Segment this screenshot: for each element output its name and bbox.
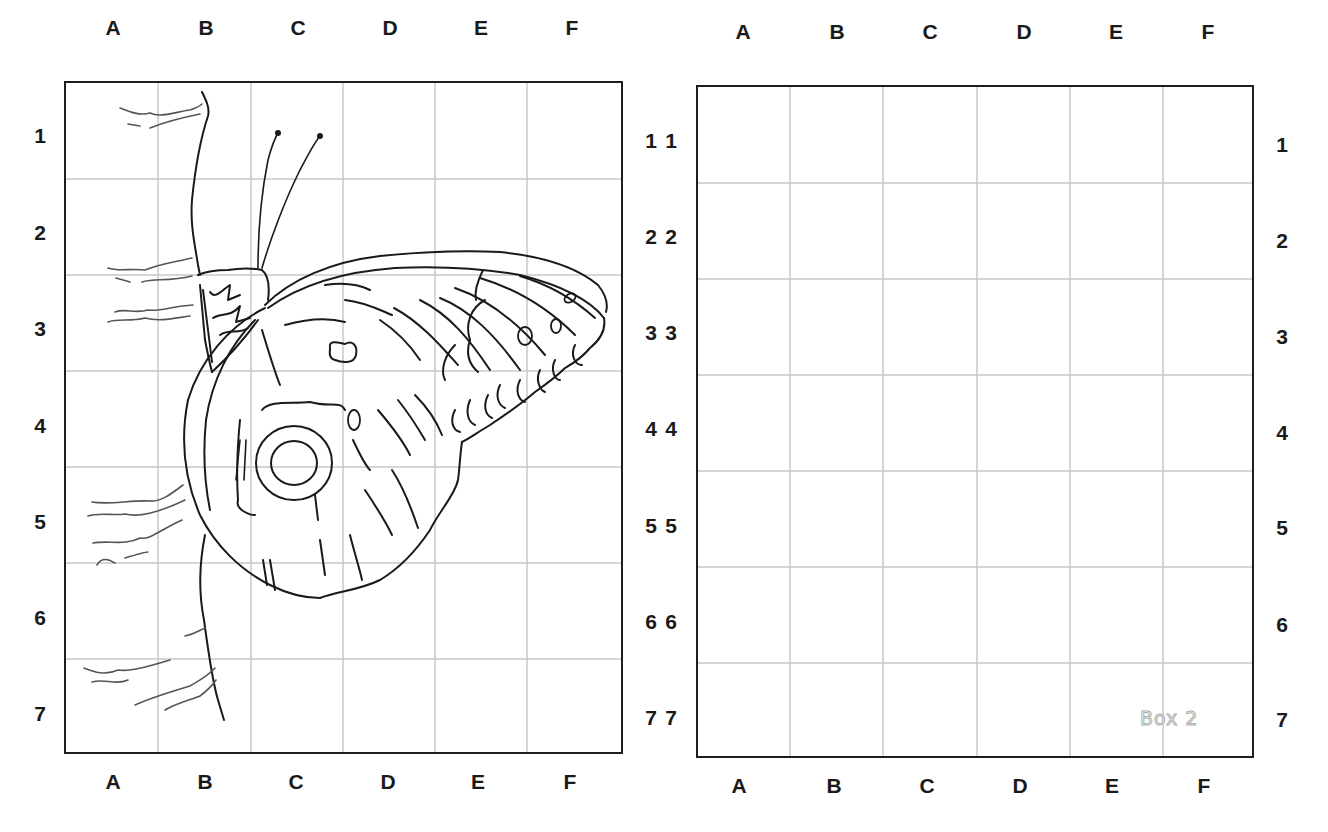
col-label-a: A [735, 20, 750, 44]
col-label-b: B [826, 774, 841, 798]
col-label-f: F [564, 770, 577, 794]
row-label-5: 5 [665, 514, 677, 538]
col-label-b: B [198, 16, 213, 40]
row-label-3: 3 [1276, 325, 1288, 349]
row-label-1: 1 [645, 129, 657, 153]
col-label-a: A [105, 770, 120, 794]
row-label-7: 7 [665, 706, 677, 730]
col-label-a: A [105, 16, 120, 40]
col-label-d: D [382, 16, 397, 40]
row-label-7: 7 [34, 702, 46, 726]
col-label-b: B [829, 20, 844, 44]
row-label-3: 3 [645, 321, 657, 345]
row-label-5: 5 [1276, 516, 1288, 540]
row-label-6: 6 [1276, 613, 1288, 637]
row-label-2: 2 [645, 225, 657, 249]
row-label-3: 3 [34, 317, 46, 341]
box2-grid: Box 2 [696, 85, 1254, 758]
row-label-5: 5 [34, 510, 46, 534]
row-label-6: 6 [34, 606, 46, 630]
box1-grid [64, 81, 623, 754]
row-label-2: 2 [1276, 229, 1288, 253]
col-label-a: A [731, 774, 746, 798]
col-label-d: D [380, 770, 395, 794]
col-label-c: C [288, 770, 303, 794]
row-label-6: 6 [645, 610, 657, 634]
box1-gridlines [66, 83, 621, 752]
box2-gridlines [698, 87, 1252, 756]
col-label-f: F [1198, 774, 1211, 798]
col-label-b: B [197, 770, 212, 794]
row-label-2: 2 [34, 221, 46, 245]
col-label-e: E [1105, 774, 1119, 798]
col-label-e: E [471, 770, 485, 794]
col-label-e: E [1109, 20, 1123, 44]
col-label-c: C [290, 16, 305, 40]
col-label-d: D [1016, 20, 1031, 44]
col-label-e: E [474, 16, 488, 40]
row-label-7: 7 [1276, 708, 1288, 732]
row-label-6: 6 [665, 610, 677, 634]
col-label-f: F [566, 16, 579, 40]
row-label-1: 1 [34, 124, 46, 148]
row-label-1: 1 [1276, 133, 1288, 157]
row-label-7: 7 [645, 706, 657, 730]
row-label-3: 3 [665, 321, 677, 345]
row-label-5: 5 [645, 514, 657, 538]
row-label-4: 4 [645, 417, 657, 441]
col-label-d: D [1012, 774, 1027, 798]
row-label-4: 4 [34, 414, 46, 438]
col-label-f: F [1202, 20, 1215, 44]
row-label-4: 4 [665, 417, 677, 441]
box2-tag: Box 2 [1140, 707, 1198, 729]
row-label-4: 4 [1276, 421, 1288, 445]
col-label-c: C [922, 20, 937, 44]
row-label-1: 1 [665, 129, 677, 153]
row-label-2: 2 [665, 225, 677, 249]
col-label-c: C [919, 774, 934, 798]
